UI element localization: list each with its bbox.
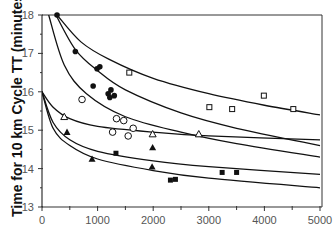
curve-a <box>57 15 320 115</box>
data-point-open-circle <box>113 115 120 122</box>
data-point-filled-circle <box>111 93 117 99</box>
plot-area: 131415161718010002000300040005000 <box>0 0 333 233</box>
data-point-filled-triangle <box>64 129 71 135</box>
data-point-filled-triangle <box>149 163 156 169</box>
data-point-open-circle <box>120 117 127 124</box>
x-tick-label: 1000 <box>85 214 109 226</box>
x-tick-label: 2000 <box>141 214 165 226</box>
data-point-open-circle <box>109 129 116 136</box>
y-tick-label: 14 <box>22 163 34 175</box>
data-point-open-triangle <box>195 131 202 137</box>
curve-c <box>49 15 320 157</box>
x-tick-label: 0 <box>39 214 45 226</box>
data-point-open-circle <box>125 133 132 140</box>
data-point-filled-circle <box>97 64 103 70</box>
data-point-filled-square <box>173 177 178 182</box>
data-point-open-square <box>230 107 235 112</box>
y-tick-label: 18 <box>22 9 34 21</box>
x-tick-label: 4000 <box>252 214 276 226</box>
data-point-filled-square <box>220 170 225 175</box>
curve-f <box>42 92 320 188</box>
x-tick-label: 3000 <box>197 214 221 226</box>
data-point-open-circle <box>79 96 86 103</box>
data-point-open-circle <box>130 125 137 132</box>
y-tick-label: 13 <box>22 201 34 213</box>
y-tick-label: 15 <box>22 124 34 136</box>
data-point-open-square <box>291 107 296 112</box>
x-tick-label: 5000 <box>308 214 332 226</box>
data-point-filled-circle <box>90 83 96 89</box>
chart: Time for 10 km Cycle TT (minutes) 131415… <box>0 0 333 233</box>
data-point-filled-square <box>168 178 173 183</box>
curve-e <box>42 92 320 175</box>
data-point-filled-square <box>113 151 118 156</box>
data-point-filled-circle <box>54 12 60 18</box>
data-point-filled-circle <box>73 49 79 55</box>
y-tick-label: 17 <box>22 47 34 59</box>
data-point-filled-triangle <box>149 144 156 150</box>
data-point-filled-square <box>234 170 239 175</box>
data-point-open-square <box>207 105 212 110</box>
y-tick-label: 16 <box>22 86 34 98</box>
data-point-open-square <box>127 70 132 75</box>
data-point-open-square <box>261 93 266 98</box>
